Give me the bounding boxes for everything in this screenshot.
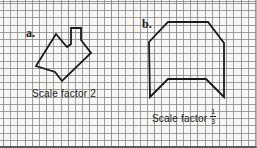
panel-b-caption-text: Scale factor bbox=[152, 110, 207, 124]
fraction-denominator: 3 bbox=[210, 116, 216, 125]
shapes-layer bbox=[0, 0, 257, 148]
fraction-numerator: 1 bbox=[210, 108, 216, 116]
panel-b-caption: Scale factor 1 3 bbox=[152, 108, 216, 125]
grid-figure: a. b. Scale factor 2 Scale factor 1 3 bbox=[0, 0, 257, 148]
panel-a-label: a. bbox=[26, 27, 35, 39]
one-third-fraction: 1 3 bbox=[210, 108, 216, 125]
panel-b-label: b. bbox=[142, 18, 152, 30]
shape-a-polygon bbox=[36, 28, 91, 81]
panel-a-caption: Scale factor 2 bbox=[26, 89, 102, 99]
shape-b-polygon bbox=[149, 22, 224, 97]
